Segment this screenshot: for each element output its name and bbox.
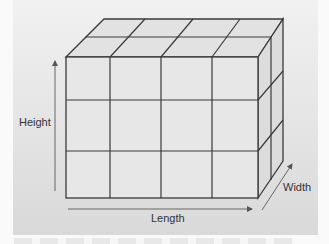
front-face: [66, 57, 258, 198]
length-label: Length: [151, 212, 185, 224]
height-label: Height: [19, 116, 51, 128]
top-face: [66, 19, 283, 57]
cropped-caption: [14, 238, 294, 244]
width-label: Width: [283, 181, 311, 193]
